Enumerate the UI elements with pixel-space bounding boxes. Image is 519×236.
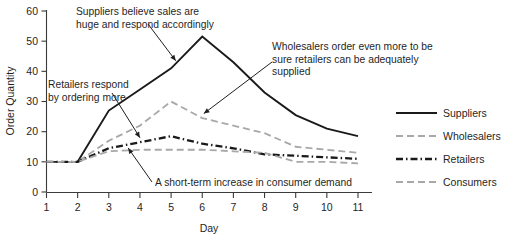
annotation-line: by ordering more — [48, 92, 126, 103]
bullwhip-effect-chart: 0102030405060 1234567891011 Order Quanti… — [0, 0, 519, 236]
annotation-line: supplied — [272, 66, 311, 77]
x-axis-title: Day — [200, 222, 219, 234]
annotation-line: Wholesalers order even more to be — [272, 41, 433, 52]
x-tick-label: 10 — [321, 201, 333, 213]
y-tick-label: 50 — [26, 35, 38, 47]
y-axis-tick-labels: 0102030405060 — [26, 5, 38, 198]
leader-line-wholesalers-note — [204, 62, 272, 114]
annotation-consumers-note: A short-term increase in consumer demand — [155, 177, 352, 188]
x-tick-label: 3 — [106, 201, 112, 213]
annotation-wholesalers-note: Wholesalers order even more to besure re… — [272, 41, 433, 77]
x-tick-label: 5 — [168, 201, 174, 213]
annotation-line: sure retailers can be adequately — [272, 54, 419, 65]
y-tick-label: 0 — [32, 186, 38, 198]
annotation-line: Retailers respond — [48, 79, 129, 90]
y-tick-label: 20 — [26, 125, 38, 137]
x-axis-tick-labels: 1234567891011 — [44, 201, 364, 213]
x-tick-label: 1 — [44, 201, 50, 213]
x-tick-label: 2 — [75, 201, 81, 213]
annotation-line: A short-term increase in consumer demand — [155, 177, 352, 188]
annotation-suppliers-note: Suppliers believe sales arehuge and resp… — [76, 6, 215, 30]
leader-arrowhead-wholesalers-note — [204, 108, 210, 113]
x-tick-label: 11 — [353, 201, 364, 213]
y-tick-label: 30 — [26, 95, 38, 107]
x-axis-ticks — [47, 193, 359, 199]
chart-canvas: 0102030405060 1234567891011 Order Quanti… — [0, 0, 519, 236]
leader-arrowhead-retailers-note — [135, 132, 140, 138]
x-tick-label: 7 — [230, 201, 236, 213]
leader-arrowhead-consumers-note — [128, 148, 133, 154]
annotation-line: Suppliers believe sales are — [76, 6, 199, 17]
annotation-line: huge and respond accordingly — [76, 19, 215, 30]
legend-label-retailers: Retailers — [443, 153, 484, 165]
x-tick-label: 9 — [293, 201, 299, 213]
y-tick-label: 60 — [26, 5, 38, 17]
annotations-group: Suppliers believe sales arehuge and resp… — [48, 6, 433, 188]
legend-label-consumers: Consumers — [443, 176, 497, 188]
leader-arrowhead-suppliers-note — [170, 55, 175, 61]
annotation-retailers-note: Retailers respondby ordering more — [48, 79, 129, 103]
y-axis-ticks — [42, 11, 47, 192]
series-line-wholesalers — [47, 102, 359, 162]
x-tick-label: 8 — [262, 201, 268, 213]
chart-legend: SuppliersWholesalersRetailersConsumers — [396, 107, 501, 188]
y-tick-label: 40 — [26, 65, 38, 77]
x-tick-label: 4 — [137, 201, 143, 213]
legend-label-wholesalers: Wholesalers — [443, 130, 501, 142]
x-tick-label: 6 — [199, 201, 205, 213]
y-axis-title: Order Quantity — [4, 66, 16, 136]
legend-label-suppliers: Suppliers — [443, 107, 487, 119]
leader-line-consumers-note — [128, 148, 152, 182]
y-tick-label: 10 — [26, 156, 38, 168]
